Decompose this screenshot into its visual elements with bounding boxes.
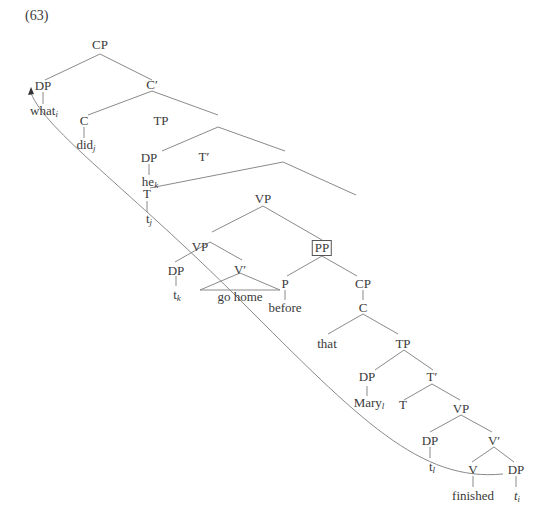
leaf-tl: tl bbox=[429, 460, 435, 477]
tree-branches bbox=[0, 0, 544, 525]
node-dp-tk: DP bbox=[168, 264, 185, 278]
leaf-go-home: go home bbox=[217, 290, 262, 304]
leaf-before: before bbox=[268, 301, 301, 315]
node-vp-lower: VP bbox=[192, 240, 209, 254]
arrowhead-icon bbox=[28, 87, 34, 95]
node-t-bar: T′ bbox=[199, 150, 210, 164]
node-t: T bbox=[143, 187, 151, 201]
node-v: V bbox=[468, 463, 477, 477]
node-cp-embedded: CP bbox=[355, 277, 371, 291]
node-p: P bbox=[281, 277, 288, 291]
node-dp-what: DP bbox=[35, 79, 52, 93]
example-number: (63) bbox=[25, 8, 48, 24]
node-tp: TP bbox=[153, 114, 168, 128]
node-t-bar-embedded: T′ bbox=[427, 370, 438, 384]
movement-arrow bbox=[31, 93, 503, 475]
node-c: C bbox=[80, 114, 89, 128]
leaf-did: didj bbox=[76, 138, 95, 155]
node-vp-embedded: VP bbox=[453, 402, 470, 416]
leaf-that: that bbox=[317, 337, 337, 351]
node-v-bar-go: V′ bbox=[234, 263, 246, 277]
node-v-bar-embedded: V′ bbox=[488, 434, 500, 448]
leaf-what: whati bbox=[30, 104, 58, 121]
node-dp-object: DP bbox=[508, 463, 525, 477]
node-dp-mary: DP bbox=[359, 370, 376, 384]
node-vp-upper: VP bbox=[255, 192, 272, 206]
leaf-tk: tk bbox=[173, 288, 181, 305]
node-tp-embedded: TP bbox=[395, 337, 410, 351]
node-cp-root: CP bbox=[92, 38, 108, 52]
node-pp-boxed: PP bbox=[312, 240, 332, 256]
node-c-embedded: C bbox=[359, 301, 368, 315]
node-t-embedded: T bbox=[399, 398, 407, 412]
node-dp-he: DP bbox=[141, 151, 158, 165]
leaf-finished: finished bbox=[452, 489, 494, 503]
leaf-mary: Maryl bbox=[354, 396, 385, 413]
node-c-bar: C′ bbox=[146, 78, 158, 92]
node-dp-tl: DP bbox=[422, 434, 439, 448]
leaf-t-trace: tj bbox=[146, 212, 152, 229]
leaf-ti: ti bbox=[514, 489, 520, 506]
